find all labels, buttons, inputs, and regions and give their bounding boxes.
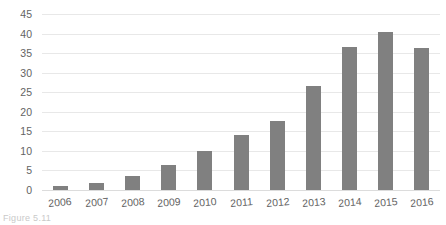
x-axis-tick-label: 2011 [229,191,253,208]
x-axis-tick-label: 2014 [337,191,362,208]
bar [125,176,140,190]
bar [378,32,393,190]
bar [234,135,249,190]
y-axis-tick-label: 10 [20,146,32,157]
bar [270,121,285,190]
x-axis-tick-label: 2008 [120,191,145,208]
bar-slot [42,14,78,190]
bar-slot [78,14,114,190]
x-axis-tick-label: 2009 [156,191,181,208]
x-axis-slot: 2012 [259,192,295,216]
bar-slot [187,14,223,190]
bar [342,47,357,190]
y-axis-tick-label: 45 [20,9,32,20]
figure-caption: Figure 5.11 [3,214,51,223]
bar-slot [404,14,440,190]
y-axis: 051015202530354045 [0,0,38,225]
y-axis-tick-label: 15 [20,126,32,137]
bar-slot [223,14,259,190]
x-axis: 2006200720082009201020112012201320142015… [42,192,440,216]
bar-slot [368,14,404,190]
bar-slot [114,14,150,190]
x-axis-tick-label: 2013 [301,191,326,208]
bar [306,86,321,190]
bar-slot [295,14,331,190]
x-axis-slot: 2013 [295,192,331,216]
y-axis-tick-label: 0 [26,185,32,196]
bar-chart-figure: 051015202530354045 200620072008200920102… [0,0,446,225]
y-axis-tick-label: 20 [20,107,32,118]
x-axis-slot: 2009 [151,192,187,216]
bar [53,186,68,190]
x-axis-slot: 2011 [223,192,259,216]
x-axis-slot: 2010 [187,192,223,216]
x-axis-tick-label: 2006 [48,191,73,208]
bar-series [42,14,440,190]
plot-area [42,14,440,190]
y-axis-tick-label: 35 [20,48,32,59]
x-axis-tick-label: 2007 [84,191,109,208]
y-axis-tick-label: 40 [20,28,32,39]
bar-slot [259,14,295,190]
x-axis-tick-label: 2015 [373,191,398,208]
x-axis-tick-label: 2012 [265,191,290,208]
y-axis-tick-label: 25 [20,87,32,98]
bar-slot [151,14,187,190]
x-axis-slot: 2014 [332,192,368,216]
bar [197,151,212,191]
x-axis-tick-label: 2016 [410,191,435,208]
y-axis-tick-label: 5 [26,165,32,176]
bar [161,165,176,190]
x-axis-tick-label: 2010 [193,191,218,208]
x-axis-slot: 2008 [114,192,150,216]
bar [414,48,429,190]
bar [89,183,104,190]
bar-slot [332,14,368,190]
y-axis-tick-label: 30 [20,67,32,78]
x-axis-slot: 2015 [368,192,404,216]
x-axis-slot: 2007 [78,192,114,216]
x-axis-slot: 2016 [404,192,440,216]
